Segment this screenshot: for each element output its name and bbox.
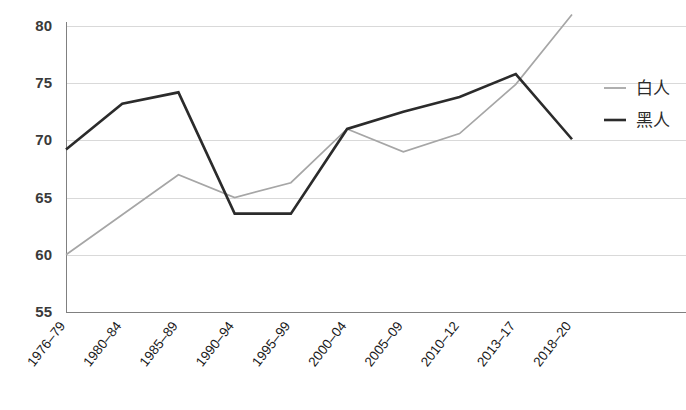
line-chart: 807570656055 1976–791980–841985–891990–9… xyxy=(0,0,686,410)
x-axis-tick-label: 1985–89 xyxy=(137,319,181,370)
x-axis-tick-label: 1995–99 xyxy=(249,319,293,370)
y-axis-tick-label: 70 xyxy=(35,131,52,148)
x-axis-tick-label: 1980–84 xyxy=(80,318,124,369)
y-axis-tick-label: 80 xyxy=(35,17,52,34)
x-axis-tick-label: 2005–09 xyxy=(362,319,406,370)
series-line-2 xyxy=(66,74,572,214)
series-line-1 xyxy=(66,15,572,255)
y-axis-tick-label: 55 xyxy=(35,303,52,320)
legend-label-1: 白人 xyxy=(636,78,670,98)
x-axis-tick-label: 1976–79 xyxy=(24,319,68,370)
y-axis-tick-label: 60 xyxy=(35,246,52,263)
x-axis-tick-label: 2010–12 xyxy=(418,319,462,370)
y-axis-labels: 807570656055 xyxy=(35,17,52,320)
legend: 白人黑人 xyxy=(604,78,670,130)
legend-label-2: 黑人 xyxy=(636,110,670,130)
x-axis-tick-label: 2000–04 xyxy=(305,318,349,369)
x-axis-labels: 1976–791980–841985–891990–941995–992000–… xyxy=(24,318,574,369)
gridlines xyxy=(66,27,686,313)
chart-canvas: 807570656055 1976–791980–841985–891990–9… xyxy=(0,0,686,410)
x-axis-tick-label: 1990–94 xyxy=(193,318,237,369)
series-lines xyxy=(66,15,572,255)
y-axis-tick-label: 75 xyxy=(35,74,52,91)
x-axis-tick-label: 2018–20 xyxy=(530,319,574,370)
x-axis-tick-label: 2013–17 xyxy=(474,319,518,370)
y-axis-tick-label: 65 xyxy=(35,189,52,206)
